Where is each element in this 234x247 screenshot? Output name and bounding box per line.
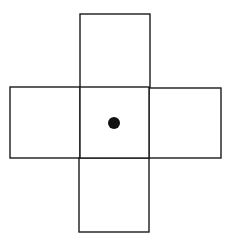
face-top	[80, 14, 150, 88]
face-left	[10, 87, 80, 158]
center-dot	[108, 117, 120, 129]
face-right	[149, 88, 221, 158]
face-bottom	[79, 158, 149, 232]
cube-net-diagram	[0, 0, 234, 247]
